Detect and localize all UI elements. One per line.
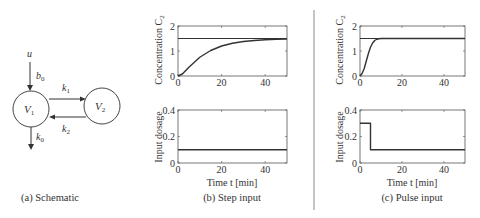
pulse-dosage-plot: 0204000.20.4 [345, 105, 466, 176]
k1-label: k1 [62, 82, 70, 95]
series-u [360, 123, 465, 150]
x-tick-label: 0 [358, 77, 363, 88]
y-tick-label: 0.2 [163, 131, 176, 142]
axes-frame [178, 110, 287, 163]
figure: u b0 V1 V2 k1 k2 k0 (a) Schematic 020400… [0, 0, 480, 218]
series-c2-response [178, 39, 287, 76]
caption-c: (c) Pulse input [381, 192, 442, 204]
caption-b: (b) Step input [203, 192, 261, 204]
y-tick-label: 0 [170, 71, 175, 82]
x-tick-label: 20 [217, 77, 227, 88]
axes-frame [178, 26, 287, 76]
input-label: u [27, 48, 32, 59]
axes-frame [360, 26, 465, 76]
y-tick-label: 0 [170, 158, 175, 169]
x-tick-label: 40 [439, 77, 449, 88]
k2-arrowhead-icon [49, 115, 55, 120]
step-xlabel: Time t [min] [207, 177, 258, 188]
axes-frame [360, 110, 465, 163]
y-tick-label: 0.4 [163, 105, 176, 116]
series-c2-response [360, 39, 465, 77]
y-tick-label: 1 [352, 46, 357, 57]
compartment-v2-label: V2 [95, 100, 106, 114]
x-tick-label: 20 [217, 164, 227, 175]
step-dosage-plot: 0204000.20.4 [163, 105, 288, 176]
caption-a: (a) Schematic [21, 192, 79, 204]
x-tick-label: 20 [397, 164, 407, 175]
pulse-conc-ylabel: Concentration C2 [334, 15, 347, 85]
x-tick-label: 20 [397, 77, 407, 88]
y-tick-label: 0.4 [345, 105, 358, 116]
pulse-xlabel: Time t [min] [387, 177, 438, 188]
x-tick-label: 0 [176, 164, 181, 175]
compartment-v1-label: V1 [24, 103, 35, 117]
pulse-concentration-plot: 02040012 [352, 21, 465, 89]
pulse-dose-ylabel: Input dosage [334, 111, 345, 163]
y-tick-label: 2 [352, 21, 357, 32]
y-tick-label: 0 [352, 158, 357, 169]
x-tick-label: 40 [260, 164, 270, 175]
x-tick-label: 40 [260, 77, 270, 88]
y-tick-label: 0.2 [345, 131, 358, 142]
y-tick-label: 1 [170, 46, 175, 57]
step-concentration-plot: 02040012 [170, 21, 287, 89]
x-tick-label: 0 [358, 164, 363, 175]
x-tick-label: 40 [439, 164, 449, 175]
y-tick-label: 2 [170, 21, 175, 32]
schematic: u b0 V1 V2 k1 k2 k0 (a) Schematic [13, 48, 120, 204]
k2-label: k2 [62, 123, 70, 136]
k0-label: k0 [36, 131, 44, 144]
step-conc-ylabel: Concentration C2 [153, 15, 166, 85]
input-arrowhead-icon [27, 85, 33, 91]
x-tick-label: 0 [176, 77, 181, 88]
input-gain-label: b0 [36, 70, 45, 83]
step-dose-ylabel: Input dosage [153, 111, 164, 163]
y-tick-label: 0 [352, 71, 357, 82]
k0-arrowhead-icon [28, 144, 34, 150]
